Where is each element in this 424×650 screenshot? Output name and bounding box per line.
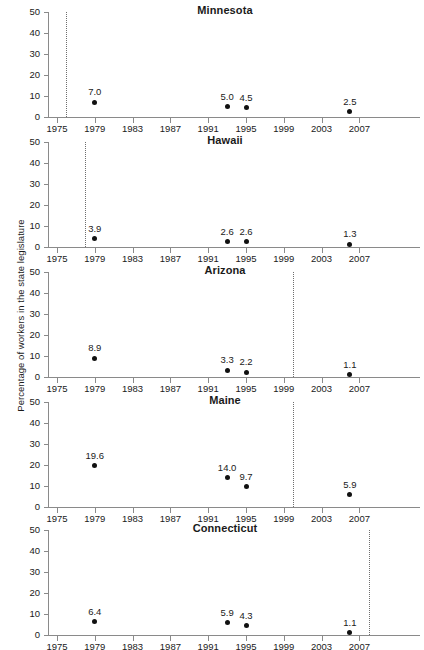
data-point-label: 19.6 (78, 451, 112, 461)
data-point-label: 3.9 (78, 224, 112, 234)
y-tick-label: 50 (18, 137, 40, 147)
y-tick-label: 10 (18, 91, 40, 101)
y-tick-mark (44, 377, 48, 378)
y-tick-mark (44, 530, 48, 531)
y-tick-label: 40 (18, 288, 40, 298)
y-axis-line (48, 402, 49, 507)
y-tick-label: 0 (18, 242, 40, 252)
y-tick-label: 20 (18, 460, 40, 470)
y-tick-label: 30 (18, 49, 40, 59)
y-tick-label: 10 (18, 221, 40, 231)
y-tick-mark (44, 335, 48, 336)
y-tick-label: 30 (18, 439, 40, 449)
y-tick-label: 50 (18, 397, 40, 407)
y-tick-mark (44, 593, 48, 594)
data-point-label: 2.5 (333, 97, 367, 107)
data-point (225, 104, 230, 109)
y-tick-label: 50 (18, 525, 40, 535)
y-tick-mark (44, 444, 48, 445)
y-axis-line (48, 272, 49, 377)
y-tick-label: 10 (18, 481, 40, 491)
x-tick-label: 1999 (264, 642, 304, 650)
data-point (92, 100, 97, 105)
data-point-label: 2.2 (229, 357, 263, 367)
y-tick-mark (44, 75, 48, 76)
y-tick-mark (44, 572, 48, 573)
data-point-label: 1.1 (333, 618, 367, 628)
data-point (92, 236, 97, 241)
y-tick-label: 40 (18, 28, 40, 38)
y-tick-label: 40 (18, 158, 40, 168)
x-axis-line (48, 117, 420, 118)
x-tick-label: 2003 (302, 642, 342, 650)
x-tick-label: 1983 (113, 642, 153, 650)
y-tick-mark (44, 551, 48, 552)
data-point (347, 109, 352, 114)
reference-line (293, 402, 294, 507)
data-point-label: 6.4 (78, 607, 112, 617)
x-axis-line (48, 507, 420, 508)
plot-area: 0102030405019751979198319871991199519992… (0, 518, 424, 648)
data-point-label: 1.3 (333, 229, 367, 239)
data-point (244, 239, 249, 244)
y-tick-mark (44, 96, 48, 97)
y-tick-label: 40 (18, 546, 40, 556)
data-point (244, 623, 249, 628)
y-tick-mark (44, 356, 48, 357)
y-tick-mark (44, 142, 48, 143)
y-axis-line (48, 142, 49, 247)
reference-line (293, 272, 294, 377)
x-tick-label: 1987 (150, 642, 190, 650)
x-tick-label: 2007 (339, 642, 379, 650)
panel-connecticut: Connecticut01020304050197519791983198719… (0, 518, 424, 648)
y-tick-label: 20 (18, 70, 40, 80)
y-tick-label: 0 (18, 372, 40, 382)
y-tick-mark (44, 272, 48, 273)
y-tick-mark (44, 54, 48, 55)
y-tick-label: 20 (18, 588, 40, 598)
data-point-label: 8.9 (78, 343, 112, 353)
plot-area: 0102030405019751979198319871991199519992… (0, 390, 424, 520)
plot-area: 0102030405019751979198319871991199519992… (0, 130, 424, 260)
y-axis-line (48, 12, 49, 117)
data-point (92, 463, 97, 468)
y-tick-label: 30 (18, 309, 40, 319)
y-tick-mark (44, 163, 48, 164)
data-point (347, 492, 352, 497)
data-point-label: 1.1 (333, 360, 367, 370)
y-tick-mark (44, 293, 48, 294)
y-tick-label: 50 (18, 7, 40, 17)
data-point-label: 4.3 (229, 611, 263, 621)
data-point (244, 484, 249, 489)
panel-arizona: Arizona010203040501975197919831987199119… (0, 260, 424, 390)
y-tick-mark (44, 465, 48, 466)
y-tick-label: 0 (18, 502, 40, 512)
data-point (92, 619, 97, 624)
data-point-label: 5.9 (333, 480, 367, 490)
data-point (225, 239, 230, 244)
y-tick-mark (44, 402, 48, 403)
y-tick-mark (44, 614, 48, 615)
y-tick-mark (44, 33, 48, 34)
y-axis-line (48, 530, 49, 635)
y-tick-mark (44, 184, 48, 185)
plot-area: 0102030405019751979198319871991199519992… (0, 260, 424, 390)
y-tick-label: 10 (18, 351, 40, 361)
y-tick-mark (44, 226, 48, 227)
data-point-label: 9.7 (229, 472, 263, 482)
x-tick-label: 1975 (37, 642, 77, 650)
y-tick-mark (44, 117, 48, 118)
y-tick-label: 0 (18, 112, 40, 122)
x-axis-line (48, 377, 420, 378)
reference-line (66, 12, 67, 117)
panel-maine: Maine01020304050197519791983198719911995… (0, 390, 424, 520)
y-tick-label: 20 (18, 200, 40, 210)
y-tick-mark (44, 635, 48, 636)
x-axis-line (48, 247, 420, 248)
y-tick-label: 30 (18, 567, 40, 577)
x-tick-label: 1979 (75, 642, 115, 650)
y-tick-mark (44, 486, 48, 487)
y-tick-mark (44, 507, 48, 508)
y-tick-mark (44, 314, 48, 315)
reference-line (369, 530, 370, 635)
